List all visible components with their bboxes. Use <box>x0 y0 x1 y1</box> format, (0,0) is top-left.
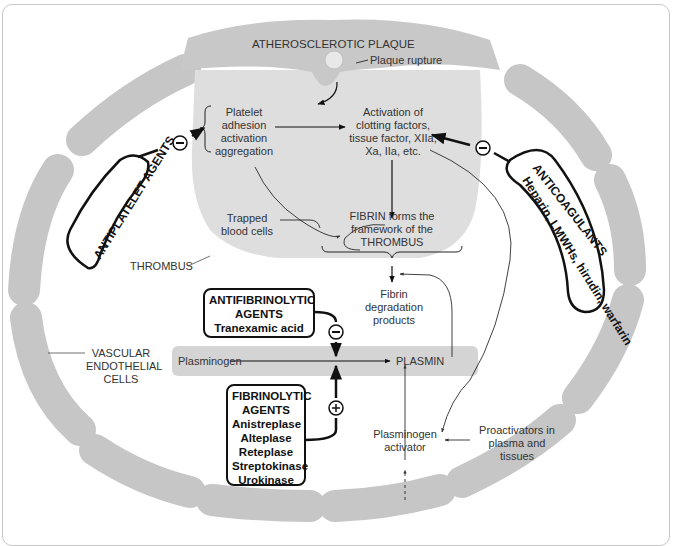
stimulate-symbol-fibrinolytic <box>329 401 343 415</box>
plaque-title: ATHEROSCLEROTIC PLAQUE <box>252 38 415 51</box>
inhibit-symbol-anticoagulant <box>476 141 490 155</box>
plasminogen-activator-label: Plasminogenactivator <box>372 428 438 454</box>
vascular-endothelial-label: VASCULARENDOTHELIALCELLS <box>86 347 156 386</box>
platelet-label: Plateletadhesionactivationaggregation <box>214 106 274 158</box>
trapped-cells-label: Trappedblood cells <box>216 212 278 238</box>
fibrinolytic-agents-box: FIBRINOLYTIC AGENTS Anistreplase Altepla… <box>226 384 306 486</box>
plasmin-label: PLASMIN <box>396 355 444 368</box>
thrombus-label: THROMBUS <box>130 260 193 273</box>
fibrin-label: FIBRIN forms theframework of theTHROMBUS <box>344 210 440 249</box>
inhibit-symbol-antifibrinolytic <box>329 325 343 339</box>
plaque-rupture-label: Plaque rupture <box>370 54 442 67</box>
plasminogen-label: Plasminogen <box>178 355 242 368</box>
proactivators-label: Proactivators inplasma andtissues <box>474 424 560 463</box>
antifibrinolytic-agents-box: ANTIFIBRINOLYTIC AGENTS Tranexamic acid <box>203 288 315 338</box>
activation-label: Activation ofclotting factors,tissue fac… <box>348 106 438 158</box>
fdp-label: Fibrindegradationproducts <box>360 288 428 327</box>
